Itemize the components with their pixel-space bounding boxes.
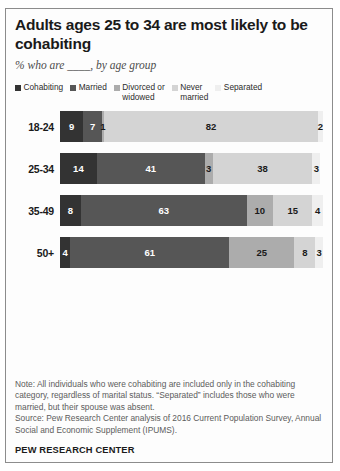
bar-segment[interactable]: 38 (213, 153, 313, 184)
bar-segment[interactable]: 63 (81, 195, 247, 226)
bar-segment[interactable]: 82 (104, 111, 317, 142)
bar-value-label: 7 (90, 121, 95, 132)
bar-segment[interactable]: 3 (205, 153, 213, 184)
legend-item-label: Never married (180, 83, 208, 102)
bar-value-label: 3 (206, 163, 211, 174)
bar-value-label: 61 (145, 247, 156, 258)
chart-figure: Adults ages 25 to 34 are most likely to … (5, 8, 333, 463)
bar-value-label: 14 (73, 163, 84, 174)
bar-segment[interactable]: 25 (229, 237, 294, 268)
bar-segment[interactable]: 10 (247, 195, 273, 226)
legend-item[interactable]: Never married (172, 83, 209, 102)
bar-value-label: 41 (145, 163, 156, 174)
legend-item[interactable]: Married (70, 83, 107, 93)
legend-swatch-icon (15, 85, 21, 91)
bar-segment[interactable]: 4 (60, 237, 70, 268)
chart-row: 50+4612583 (15, 237, 323, 268)
category-label: 18-24 (15, 121, 60, 133)
bar-value-label: 82 (206, 121, 217, 132)
bar-value-label: 25 (257, 247, 268, 258)
bar-segment[interactable]: 3 (315, 237, 323, 268)
legend-item[interactable]: Cohabiting (15, 83, 63, 93)
bar-value-label: 4 (63, 247, 68, 258)
category-label: 50+ (15, 247, 60, 259)
bar-segment[interactable]: 61 (70, 237, 229, 268)
bar-segment[interactable]: 41 (97, 153, 205, 184)
bar-segment[interactable]: 8 (60, 195, 81, 226)
chart-row: 35-4986310154 (15, 195, 323, 226)
category-label: 25-34 (15, 163, 60, 175)
bar-value-label: 8 (302, 247, 307, 258)
legend-swatch-icon (172, 85, 178, 91)
bar-segment[interactable]: 4 (312, 195, 323, 226)
bar-value-label: 9 (69, 121, 74, 132)
bar-value-label: 15 (287, 205, 298, 216)
bar-value-label: 3 (314, 163, 319, 174)
bar-value-label: 63 (159, 205, 170, 216)
category-label: 35-49 (15, 205, 60, 217)
chart-row: 18-24971822 (15, 111, 323, 142)
chart-source: Source: Pew Research Center analysis of … (15, 413, 323, 436)
chart-row: 25-3414413383 (15, 153, 323, 184)
legend-item[interactable]: Divorced or widowed (114, 83, 165, 102)
chart-subtitle: % who are ____, by age group (15, 58, 323, 72)
stacked-bar: 971822 (60, 111, 323, 142)
legend-item[interactable]: Separated (215, 83, 262, 93)
bar-segment[interactable]: 14 (60, 153, 97, 184)
chart-header: Adults ages 25 to 34 are most likely to … (6, 9, 332, 268)
legend-swatch-icon (70, 85, 76, 91)
bar-value-label: 2 (318, 121, 323, 132)
brand-label: PEW RESEARCH CENTER (15, 445, 323, 455)
stacked-bar: 86310154 (60, 195, 323, 226)
stacked-bar-chart: 18-2497182225-341441338335-498631015450+… (15, 111, 323, 268)
bar-segment[interactable]: 7 (83, 111, 101, 142)
bar-value-label: 4 (315, 205, 320, 216)
bar-segment[interactable]: 8 (294, 237, 315, 268)
bar-segment[interactable]: 2 (318, 111, 323, 142)
bar-segment[interactable]: 9 (60, 111, 83, 142)
bar-value-label: 38 (257, 163, 268, 174)
chart-title: Adults ages 25 to 34 are most likely to … (15, 16, 323, 53)
legend-swatch-icon (114, 85, 120, 91)
chart-footer: Note: All individuals who were cohabitin… (6, 379, 332, 462)
bar-segment[interactable]: 15 (273, 195, 312, 226)
legend-item-label: Separated (224, 83, 262, 93)
stacked-bar: 14413383 (60, 153, 323, 184)
bar-value-label: 1 (100, 121, 105, 132)
bar-segment[interactable]: 3 (312, 153, 320, 184)
legend-item-label: Cohabiting (24, 83, 64, 93)
bar-value-label: 3 (316, 247, 321, 258)
chart-note: Note: All individuals who were cohabitin… (15, 379, 323, 413)
legend-item-label: Divorced or widowed (122, 83, 164, 102)
stacked-bar: 4612583 (60, 237, 323, 268)
legend-item-label: Married (79, 83, 107, 93)
bar-value-label: 8 (68, 205, 73, 216)
legend-swatch-icon (215, 85, 221, 91)
bar-value-label: 10 (255, 205, 266, 216)
chart-legend: CohabitingMarriedDivorced or widowedNeve… (15, 83, 323, 102)
